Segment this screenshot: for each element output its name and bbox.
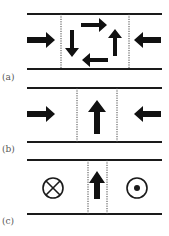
loop-arrow-right-icon [81, 18, 107, 32]
arrow-left-icon [134, 106, 161, 122]
panel-a-label: (a) [2, 72, 14, 82]
panel-b: (b) [2, 88, 162, 154]
arrow-left-icon [134, 32, 161, 48]
panel-c-label: (c) [2, 216, 14, 226]
loop-arrow-down-icon [65, 30, 79, 57]
panel-b-label: (b) [2, 144, 15, 154]
arrow-right-icon [27, 106, 55, 122]
loop-arrow-up-icon [108, 29, 122, 56]
diagram: (a) (b) (c) [0, 0, 169, 236]
out-of-page-icon [127, 178, 147, 198]
panel-c: (c) [2, 160, 162, 226]
loop-arrow-left-icon [82, 53, 108, 67]
arrow-right-icon [27, 32, 55, 48]
arrow-up-icon [88, 100, 106, 134]
arrow-up-icon [89, 171, 105, 199]
into-page-icon [43, 178, 63, 198]
panel-a: (a) [2, 14, 162, 82]
